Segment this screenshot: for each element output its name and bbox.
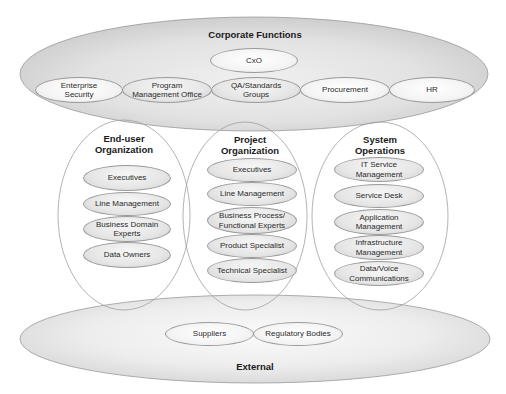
project-technical-specialist-node: Technical Specialist: [207, 258, 297, 283]
enduser-org-title: End-user Organization: [74, 132, 174, 156]
enduser-line-management-node: Line Management: [83, 192, 171, 216]
project-executives-node: Executives: [207, 158, 297, 182]
cxo-node: CxO: [210, 48, 298, 73]
enduser-executives-node: Executives: [83, 165, 171, 191]
system-ops-title: System Operations: [330, 133, 430, 157]
external-title: External: [210, 359, 300, 373]
hr-node: HR: [389, 77, 475, 103]
regulatory-bodies-node: Regulatory Bodies: [253, 322, 343, 346]
qa-standards-node: QA/Standards Groups: [211, 77, 301, 103]
project-product-specialist-node: Product Specialist: [207, 234, 297, 258]
project-line-management-node: Line Management: [207, 182, 297, 206]
project-org-title: Project Organization: [200, 133, 300, 157]
enterprise-security-node: Enterprise Security: [35, 77, 123, 103]
procurement-node: Procurement: [300, 77, 390, 103]
infrastructure-management-node: Infrastructure Management: [334, 235, 424, 260]
project-business-process-node: Business Process/ Functional Experts: [207, 207, 297, 234]
data-voice-communications-node: Data/Voice Communications: [334, 261, 424, 286]
enduser-data-owners-node: Data Owners: [83, 242, 171, 268]
suppliers-node: Suppliers: [165, 322, 254, 346]
it-service-management-node: IT Service Management: [334, 157, 424, 182]
corporate-functions-title: Corporate Functions: [180, 27, 330, 41]
enduser-business-domain-experts-node: Business Domain Experts: [83, 216, 171, 242]
service-desk-node: Service Desk: [334, 184, 424, 208]
org-diagram: Corporate Functions CxO Enterprise Secur…: [0, 0, 506, 394]
application-management-node: Application Management: [334, 209, 424, 235]
program-management-office-node: Program Management Office: [122, 77, 212, 103]
